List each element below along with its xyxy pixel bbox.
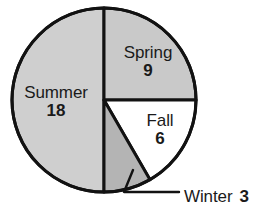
slice-label-winter-name: Winter [184, 187, 233, 207]
pie-chart-graphic [0, 0, 267, 217]
slice-label-winter: Winter 3 [184, 187, 249, 207]
slice-label-winter-value: 3 [240, 187, 249, 207]
pie-slice-summer[interactable] [12, 8, 104, 192]
pie-chart: Spring 9 Summer 18 Fall 6 Winter 3 [0, 0, 267, 217]
